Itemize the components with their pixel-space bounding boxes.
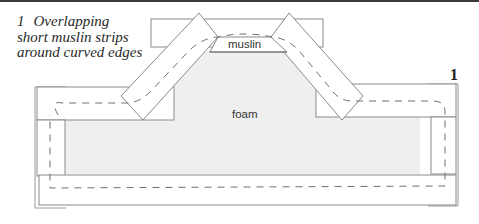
- label-foam: foam: [232, 108, 258, 120]
- muslin-strip-bottom: [39, 175, 456, 205]
- label-muslin: muslin: [228, 38, 261, 50]
- muslin-strip-right-side: [431, 117, 456, 174]
- muslin-strip-left-side: [37, 120, 65, 176]
- upholstery-diagram: muslin foam: [0, 0, 479, 224]
